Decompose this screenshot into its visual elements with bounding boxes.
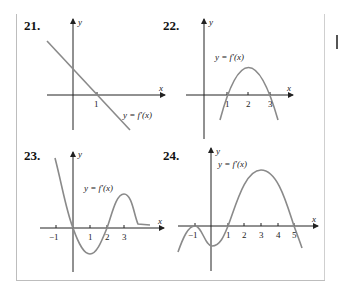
y-axis-label: y: [215, 146, 220, 156]
y-axis-label: y: [77, 17, 82, 27]
x-axis-label: x: [158, 83, 163, 93]
derivative-curve: [220, 68, 278, 121]
tick-label: −1: [188, 230, 198, 240]
tick-label: 1: [94, 99, 99, 109]
graph-21: y x 1 y = f′(x): [47, 17, 165, 130]
derivative-curve: [55, 158, 150, 254]
graph-22: y x 1 2 3 y = f′(x): [186, 17, 293, 139]
tick-label: 3: [268, 99, 273, 109]
tick-label: 2: [105, 232, 110, 242]
graphs-canvas: y x 1 y = f′(x) y x 1 2 3 y = f′(x) y x …: [0, 0, 338, 289]
tick-label: 4: [276, 230, 281, 240]
tick-label: 2: [242, 230, 247, 240]
x-axis-label: x: [311, 214, 316, 224]
tick-label: 5: [292, 230, 297, 240]
curve-label: y = f′(x): [214, 52, 244, 62]
x-axis-label: x: [157, 216, 162, 226]
derivative-curve: [47, 41, 130, 130]
curve-label: y = f′(x): [83, 183, 113, 193]
tick-label: −1: [49, 232, 59, 242]
graph-23: y x −1 1 2 3 y = f′(x): [40, 149, 164, 272]
tick-label: 1: [225, 99, 230, 109]
tick-label: 3: [259, 230, 264, 240]
y-axis-label: y: [77, 149, 82, 159]
tick-label: 2: [246, 99, 251, 109]
curve-label: y = f′(x): [217, 159, 247, 169]
tick-label: 1: [226, 230, 231, 240]
curve-label: y = f′(x): [122, 110, 152, 120]
graph-24: y x −1 1 2 3 4 5 y = f′(x): [178, 146, 318, 271]
tick-label: 1: [88, 232, 93, 242]
x-axis-label: x: [286, 83, 291, 93]
tick-label: 3: [122, 232, 127, 242]
y-axis-label: y: [208, 17, 213, 27]
